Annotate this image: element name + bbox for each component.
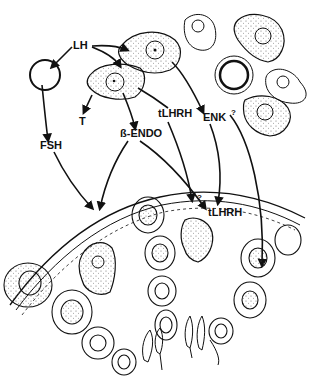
label-tlhrh-upper: tLHRH: [158, 108, 192, 119]
sertoli-cells: [79, 218, 213, 294]
label-t: T: [79, 116, 86, 127]
arrow-lh-to-middle-cell: [92, 47, 120, 66]
arrow-fsh-to-tubule: [54, 152, 92, 208]
cell-top-right: [234, 15, 284, 62]
arrow-enk-to-lower-cell: [230, 115, 262, 265]
vessel-ring: [215, 56, 253, 94]
label-lower-question: ?: [197, 194, 202, 202]
arrow-lh-to-follicle: [52, 47, 72, 67]
arrow-enk-down: [210, 124, 220, 203]
arrow-beta-endo-to-tlhrh: [140, 141, 205, 208]
label-beta-endo: ß-ENDO: [120, 128, 162, 139]
spermatids: [143, 316, 219, 370]
label-enk-question: ?: [231, 109, 236, 117]
label-enk: ENK: [203, 112, 226, 123]
arrow-follicle-to-fsh: [42, 85, 48, 140]
arrow-upper-cell-to-enk: [172, 62, 203, 112]
arrow-to-t: [84, 95, 92, 112]
label-lh: LH: [73, 40, 88, 51]
label-fsh: FSH: [40, 140, 62, 151]
cell-top-center: [184, 14, 216, 50]
leydig-cell-middle: [87, 64, 144, 99]
diagram-drawing: [0, 0, 327, 388]
arrow-middle-cell-to-tlhrh: [138, 88, 168, 108]
label-tlhrh-lower: tLHRH: [208, 207, 242, 218]
arrow-tlhrh-down: [168, 122, 192, 200]
arrow-beta-endo-to-tubule: [100, 141, 128, 208]
